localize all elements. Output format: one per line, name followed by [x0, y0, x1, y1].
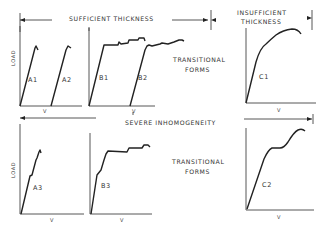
curve-label-a2: A2: [62, 76, 72, 84]
arrowhead-left: [20, 18, 25, 22]
curve-label-a1: A1: [28, 76, 38, 84]
curve-c1: [246, 29, 301, 103]
x-axis-label: V: [120, 217, 124, 223]
curve-label-c1: C1: [259, 73, 269, 81]
curve-a3: [21, 150, 41, 214]
curve-b1: [89, 38, 145, 106]
curve-b3: [91, 145, 150, 214]
transitional-forms-top-line1: TRANSITIONAL: [172, 56, 225, 63]
x-axis-label: V: [43, 108, 47, 114]
arrowhead-right-end: [307, 16, 312, 20]
sufficient-thickness-label: SUFFICIENT THICKNESS: [69, 15, 154, 22]
curve-label-a3: A3: [33, 184, 43, 192]
insufficient-thickness-band: INSUFFICIENT THICKNESS: [237, 9, 312, 30]
curve-c2: [247, 129, 305, 209]
transitional-forms-bottom-line1: TRANSITIONAL: [171, 158, 224, 165]
x-axis-label: V: [50, 217, 54, 223]
curve-b2: [130, 40, 184, 106]
sufficient-thickness-band: SUFFICIENT THICKNESS: [20, 10, 216, 32]
insufficient-label-line2: THICKNESS: [240, 18, 281, 25]
arrowhead-divider: [211, 18, 216, 22]
arrowhead-right: [307, 117, 312, 121]
panel-a3: LOAD V A3: [10, 124, 84, 223]
transitional-forms-top-line2: FORMS: [185, 66, 210, 73]
arrowhead-right: [203, 18, 208, 22]
y-axis-label: LOAD: [10, 50, 16, 66]
insufficient-label-line1: INSUFFICIENT: [237, 9, 287, 16]
panel-c2: V C2: [246, 128, 314, 220]
y-axis-label: LOAD: [10, 162, 16, 178]
panel-b3: V B3: [90, 133, 152, 223]
x-axis-label: V: [277, 107, 281, 113]
curve-label-c2: C2: [262, 181, 272, 189]
panel-c1: V C1: [246, 28, 316, 113]
curve-label-b3: B3: [101, 182, 111, 190]
panel-a1-a2: LOAD V A1 A2: [10, 26, 82, 114]
x-axis-label: V: [277, 214, 281, 220]
transitional-forms-bottom-line2: FORMS: [185, 168, 210, 175]
curve-label-b1: B1: [99, 74, 109, 82]
severe-inhomogeneity-band: SEVERE INHOMOGENEITY: [20, 112, 313, 126]
load-displacement-diagram: SUFFICIENT THICKNESS INSUFFICIENT THICKN…: [0, 0, 323, 227]
arrowhead-left: [20, 116, 25, 120]
severe-inhomogeneity-label: SEVERE INHOMOGENEITY: [125, 119, 216, 126]
panel-b1-b2: V B1 B2: [89, 28, 184, 114]
curve-label-b2: B2: [138, 74, 148, 82]
